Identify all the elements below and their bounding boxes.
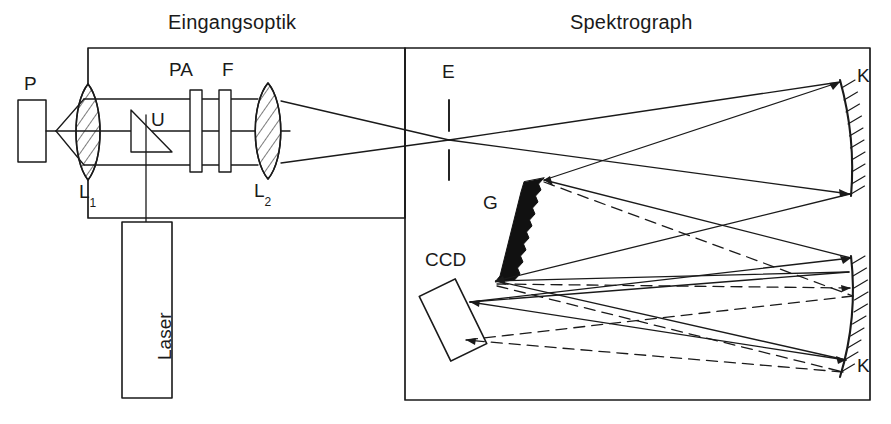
label-lens-l1: L1 xyxy=(79,182,96,205)
label-lens-l1-main: L xyxy=(79,181,90,202)
beam-l2-to-slit xyxy=(281,101,449,163)
sample-block-p xyxy=(18,100,46,162)
blazed-grating-g xyxy=(495,178,544,282)
polarizer-plate-pa xyxy=(190,90,202,172)
label-filter-f: F xyxy=(222,60,234,79)
lens-l1 xyxy=(68,80,110,184)
label-lens-l2-sub: 2 xyxy=(265,195,272,209)
label-ccd: CCD xyxy=(425,250,466,269)
label-mirror-k-bottom: K xyxy=(857,356,870,375)
spectrograph-schematic-figure: Eingangsoptik Spektrograph P L1 U PA F L… xyxy=(0,0,891,424)
label-lens-l2-main: L xyxy=(254,180,265,201)
concave-mirror-k-top xyxy=(840,80,865,196)
label-mirror-k-top: K xyxy=(857,66,870,85)
filter-plate-f xyxy=(219,90,231,172)
label-lens-l2: L2 xyxy=(254,181,271,204)
label-grating-g: G xyxy=(483,193,498,212)
label-entrance-slit-e: E xyxy=(442,62,455,81)
label-laser: Laser xyxy=(155,312,174,360)
label-beamsplitter-u: U xyxy=(151,110,165,129)
label-polarizer-pa: PA xyxy=(169,60,193,79)
label-sample-p: P xyxy=(24,74,37,93)
label-lens-l1-sub: 1 xyxy=(90,196,97,210)
laser-source-box xyxy=(122,222,172,398)
title-spektrograph: Spektrograph xyxy=(570,12,692,32)
beam-collimated-l1-l2 xyxy=(84,99,258,165)
ccd-detector xyxy=(419,279,487,361)
title-eingangsoptik: Eingangsoptik xyxy=(168,12,296,32)
